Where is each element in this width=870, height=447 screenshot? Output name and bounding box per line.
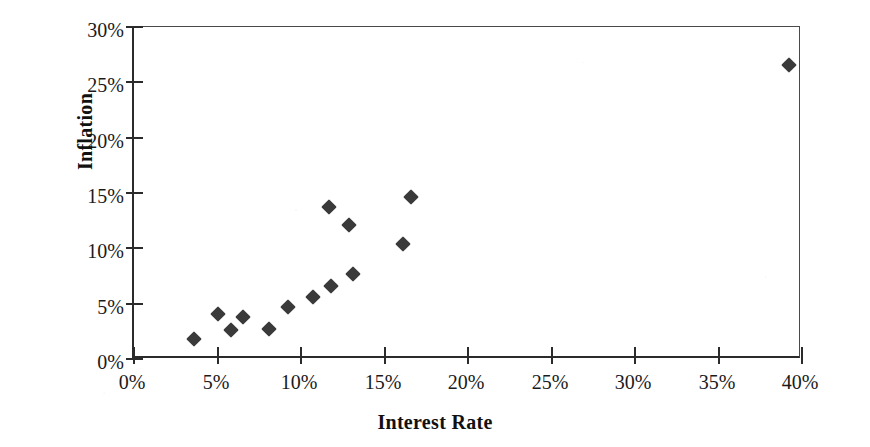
x-axis-tick [634, 347, 636, 364]
x-tick-label-15: 15% [343, 372, 423, 392]
data-point-marker [395, 236, 411, 252]
x-tick-label-25: 25% [510, 372, 590, 392]
x-axis-tick [551, 347, 553, 364]
x-tick-label-40: 40% [760, 372, 840, 392]
y-tick-label-30: 30% [52, 20, 124, 40]
data-point-marker [261, 321, 277, 337]
y-axis-tick [126, 247, 143, 249]
y-axis-tick [126, 81, 143, 83]
scatter-chart: 30% 25% 20% 15% 10% 5% 0% 0% 5% 10% 15% … [0, 0, 870, 447]
data-point-marker [210, 306, 226, 322]
data-point-marker [342, 217, 358, 233]
data-point-marker [345, 266, 361, 282]
data-point-marker [235, 309, 251, 325]
data-point-marker [781, 57, 797, 73]
x-axis-tick [133, 347, 135, 364]
data-point-marker [322, 200, 338, 216]
data-point-marker [403, 190, 419, 206]
y-axis-title: Inflation [74, 57, 97, 207]
y-tick-label-0: 0% [52, 352, 124, 372]
y-tick-label-10: 10% [52, 241, 124, 261]
x-tick-label-5: 5% [176, 372, 256, 392]
x-axis-tick [384, 347, 386, 364]
data-point-marker [323, 278, 339, 294]
data-point-marker [305, 289, 321, 305]
x-tick-label-20: 20% [426, 372, 506, 392]
x-tick-label-30: 30% [593, 372, 673, 392]
x-tick-label-35: 35% [677, 372, 757, 392]
x-axis-tick [217, 347, 219, 364]
y-axis-tick [126, 192, 143, 194]
x-axis-tick [300, 347, 302, 364]
y-axis-tick [126, 303, 143, 305]
x-axis-tick [718, 347, 720, 364]
x-tick-label-0: 0% [92, 372, 172, 392]
x-axis-title: Interest Rate [0, 411, 870, 434]
y-axis-tick [126, 26, 143, 28]
x-axis-tick [801, 347, 803, 364]
data-point-marker [186, 331, 202, 347]
data-point-marker [223, 322, 239, 338]
data-point-marker [280, 299, 296, 315]
x-tick-label-10: 10% [259, 372, 339, 392]
y-tick-label-5: 5% [52, 297, 124, 317]
x-axis-tick [467, 347, 469, 364]
plot-area [132, 26, 800, 358]
y-axis-tick [126, 137, 143, 139]
